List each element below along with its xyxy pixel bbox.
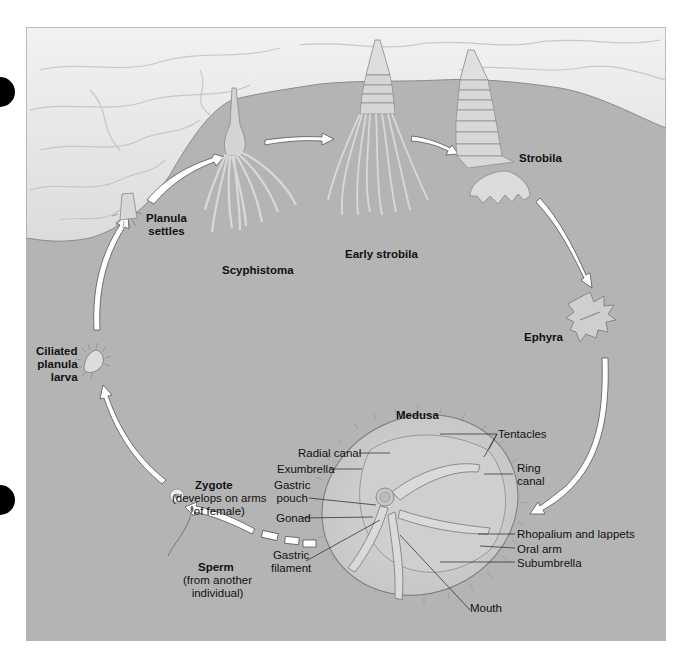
label-gastric-filament: Gastric filament (271, 549, 311, 575)
label-exumbrella: Exumbrella (277, 463, 335, 476)
label-gastric-pouch: Gastric pouch (274, 479, 310, 505)
diagram-panel: Planula settles Scyphistoma Early strobi… (26, 27, 666, 641)
label-scyphistoma: Scyphistoma (222, 264, 294, 277)
label-sperm-note: (from another individual) (183, 574, 252, 600)
label-radial-canal: Radial canal (298, 447, 361, 460)
ephyra-figure (566, 292, 616, 342)
label-early-strobila: Early strobila (345, 248, 418, 261)
label-tentacles: Tentacles (498, 428, 547, 441)
label-ring-canal: Ring canal (517, 462, 545, 488)
label-medusa: Medusa (396, 409, 439, 422)
label-oral-arm: Oral arm (517, 543, 562, 556)
label-mouth: Mouth (470, 602, 502, 615)
page-bullet-top (0, 77, 15, 107)
label-ciliated-planula-larva: Ciliated planula larva (36, 345, 78, 384)
label-rhopalium-and-lappets: Rhopalium and lappets (517, 528, 635, 541)
label-sperm: Sperm (198, 561, 234, 574)
label-ephyra: Ephyra (524, 331, 563, 344)
label-zygote-note: (develops on arms of female) (172, 492, 267, 518)
label-gonad: Gonad (276, 512, 311, 525)
page-bullet-bottom (0, 485, 15, 515)
label-planula-settles: Planula settles (146, 212, 187, 238)
label-subumbrella: Subumbrella (517, 557, 582, 570)
label-zygote: Zygote (195, 479, 233, 492)
diagram-art (26, 27, 666, 641)
label-strobila: Strobila (519, 152, 562, 165)
ciliated-planula-figure (75, 343, 111, 379)
